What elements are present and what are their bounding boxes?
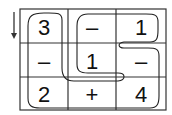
grid-cells: 3 – 1 – 1 – 2 + 4 <box>38 15 148 107</box>
cell-r1c3: 1 <box>135 15 147 40</box>
cell-r3c3: 4 <box>135 82 147 107</box>
down-arrow-icon <box>11 12 17 39</box>
puzzle-diagram: 3 – 1 – 1 – 2 + 4 <box>0 0 172 115</box>
cell-r1c1: 3 <box>38 15 50 40</box>
cell-r3c2: + <box>86 82 99 107</box>
cell-r2c3: – <box>135 49 148 74</box>
cell-r2c1: – <box>38 49 51 74</box>
cell-r2c2: 1 <box>86 49 98 74</box>
cell-r1c2: – <box>86 15 99 40</box>
cell-r3c1: 2 <box>38 82 50 107</box>
